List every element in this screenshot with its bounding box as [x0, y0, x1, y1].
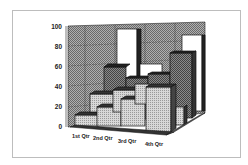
- y-tick-80: 80: [55, 43, 63, 50]
- y-tick-0: 0: [58, 123, 62, 130]
- x-label-2nd-qtr: 2nd Qtr: [93, 135, 113, 141]
- x-label-1st-qtr: 1st Qtr: [72, 133, 91, 139]
- y-tick-100: 100: [51, 23, 62, 30]
- x-label-3rd-qtr: 3rd Qtr: [118, 138, 137, 144]
- x-label-4th-qtr: 4th Qtr: [145, 141, 164, 147]
- x-axis: 1st Qtr 2nd Qtr 3rd Qtr 4th Qtr: [72, 133, 164, 147]
- y-tick-40: 40: [55, 83, 63, 90]
- chart-3d-bar: 100 80 60 40 20 0: [0, 0, 248, 165]
- y-tick-60: 60: [55, 63, 63, 70]
- y-tick-20: 20: [55, 103, 63, 110]
- y-axis: 100 80 60 40 20 0: [51, 23, 66, 130]
